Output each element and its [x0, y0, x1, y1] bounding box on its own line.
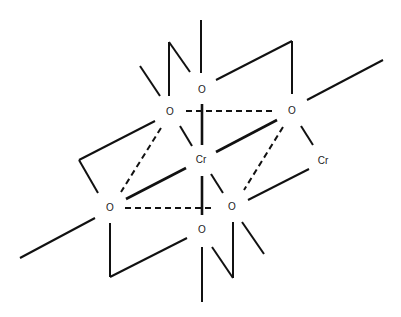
atom-cr-center: Cr: [196, 154, 207, 165]
atom-o-upper-right: O: [288, 105, 296, 116]
cr-right-bonds: [248, 126, 313, 200]
cr-o-octahedron-diagram: O O O Cr Cr O O O: [0, 0, 401, 317]
atom-o-upper-left: O: [166, 106, 174, 117]
atom-o-top: O: [198, 84, 206, 95]
atom-o-bottom: O: [198, 224, 206, 235]
upper-framework: [79, 20, 383, 193]
atom-o-lower-left: O: [106, 202, 114, 213]
atom-cr-right: Cr: [318, 155, 329, 166]
lower-framework: [20, 218, 264, 302]
atom-o-lower-right: O: [228, 201, 236, 212]
atom-labels: O O O Cr Cr O O O: [106, 84, 329, 235]
